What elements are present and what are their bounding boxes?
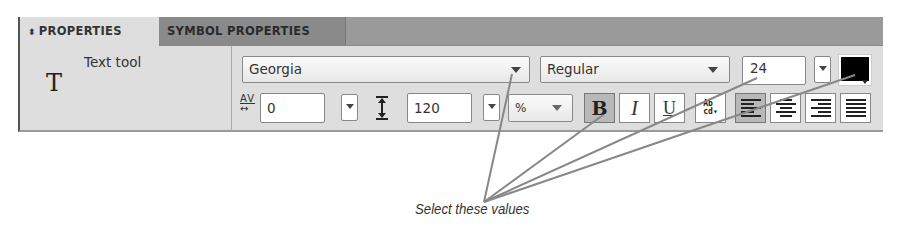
chevron-down-icon <box>346 104 354 109</box>
bold-icon: B <box>591 97 607 119</box>
tracking-value: 0 <box>267 100 276 116</box>
underline-button[interactable]: U <box>654 93 685 123</box>
text-tool-icon: T <box>46 69 62 97</box>
align-center-button[interactable] <box>770 93 801 123</box>
leading-value: 120 <box>414 100 440 116</box>
tab-symbol-properties-label: SYMBOL PROPERTIES <box>167 24 310 38</box>
up-down-arrows-icon: ⬍ <box>28 27 36 37</box>
font-size-dropdown[interactable] <box>814 56 831 83</box>
align-right-button[interactable] <box>805 93 836 123</box>
chevron-down-icon <box>511 67 521 73</box>
font-size-input[interactable]: 24 <box>742 56 806 85</box>
font-style-value: Regular <box>547 61 599 77</box>
justify-icon <box>846 99 866 117</box>
tracking-input[interactable]: 0 <box>260 93 325 123</box>
align-left-button[interactable] <box>735 93 766 123</box>
tool-label: Text tool <box>84 54 141 70</box>
tab-properties[interactable]: ⬍PROPERTIES <box>20 17 159 46</box>
tracking-dropdown[interactable] <box>341 94 358 121</box>
align-right-icon <box>811 99 831 117</box>
tracking-icon: AV ↔ <box>240 94 255 114</box>
tab-symbol-properties[interactable]: SYMBOL PROPERTIES <box>159 17 346 45</box>
leading-icon <box>375 96 389 120</box>
tool-info: T Text tool <box>20 46 232 130</box>
font-family-dropdown[interactable]: Georgia <box>242 56 530 83</box>
font-size-value: 24 <box>750 60 767 76</box>
fill-color-swatch[interactable] <box>838 54 872 86</box>
chevron-down-icon <box>819 66 827 71</box>
text-wrap-icon: Ab cd▾ <box>703 100 717 116</box>
tab-bar: ⬍PROPERTIES SYMBOL PROPERTIES <box>20 17 883 46</box>
font-family-value: Georgia <box>249 61 302 77</box>
italic-button[interactable]: I <box>619 93 650 123</box>
bold-button[interactable]: B <box>584 93 615 123</box>
chevron-down-icon <box>552 105 562 111</box>
tab-properties-label: PROPERTIES <box>39 24 122 38</box>
justify-button[interactable] <box>840 93 871 123</box>
chevron-down-icon <box>862 80 868 84</box>
chevron-down-icon <box>488 104 496 109</box>
leading-unit-value: % <box>515 101 526 115</box>
leading-dropdown[interactable] <box>483 94 500 121</box>
leading-input[interactable]: 120 <box>407 93 472 123</box>
leading-unit-dropdown[interactable]: % <box>508 94 573 122</box>
align-left-icon <box>741 99 761 117</box>
chevron-down-icon <box>708 67 718 73</box>
text-wrap-button[interactable]: Ab cd▾ <box>695 93 726 123</box>
italic-icon: I <box>631 96 638 121</box>
color-swatch-fill <box>841 57 869 81</box>
underline-icon: U <box>663 98 676 119</box>
align-center-icon <box>776 99 796 117</box>
font-style-dropdown[interactable]: Regular <box>540 56 730 83</box>
annotation-caption: Select these values <box>415 200 529 217</box>
